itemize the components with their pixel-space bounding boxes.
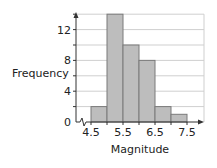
histogram-bar: [171, 114, 187, 122]
y-axis-arrow-icon: [74, 12, 79, 18]
x-axis-arrow-icon: [198, 120, 204, 125]
x-tick-label: 4.5: [82, 126, 100, 139]
x-tick-label: 6.5: [146, 126, 164, 139]
histogram-bar: [139, 60, 155, 122]
x-ticks: 4.55.56.57.5: [82, 122, 196, 139]
y-tick-label: 4: [64, 85, 71, 98]
histogram-bar: [107, 14, 123, 122]
histogram-bar: [155, 107, 171, 122]
y-tick-label: 0: [64, 116, 71, 129]
histogram-chart: 04812 4.55.56.57.5 Frequency Magnitude: [0, 0, 217, 168]
y-tick-label: 12: [57, 24, 71, 37]
axis-break-icon: [80, 118, 86, 126]
histogram-bars: [91, 14, 187, 122]
x-axis-title: Magnitude: [111, 143, 170, 156]
histogram-bar: [91, 107, 107, 122]
y-tick-label: 8: [64, 54, 71, 67]
x-tick-label: 7.5: [178, 126, 196, 139]
histogram-bar: [123, 45, 139, 122]
y-axis-title: Frequency: [12, 67, 69, 80]
x-tick-label: 5.5: [114, 126, 132, 139]
